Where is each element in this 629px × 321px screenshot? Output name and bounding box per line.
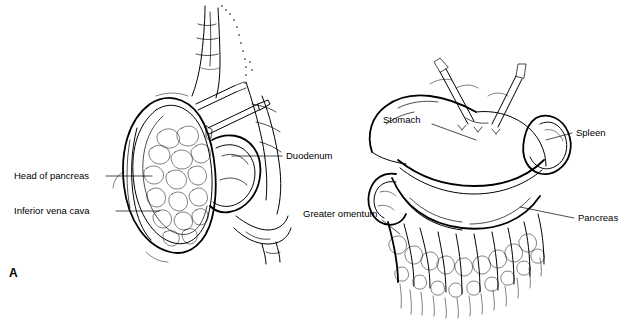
label-head-of-pancreas: Head of pancreas <box>14 170 89 181</box>
label-greater-omentum: Greater omentum <box>303 208 377 219</box>
label-stomach: Stomach <box>383 114 421 125</box>
label-duodenum: Duodenum <box>286 150 332 161</box>
panel-label-a: A <box>9 266 18 280</box>
figure-page: Head of pancreas Inferior vena cava Duod… <box>0 0 629 321</box>
label-pancreas: Pancreas <box>578 212 618 223</box>
leader-stomach <box>432 124 476 140</box>
leader-pancreas <box>520 207 574 218</box>
left-panel-illustration <box>113 5 291 264</box>
label-inferior-vena-cava: Inferior vena cava <box>14 205 90 216</box>
label-spleen: Spleen <box>576 127 606 138</box>
right-panel-illustration <box>368 58 570 318</box>
